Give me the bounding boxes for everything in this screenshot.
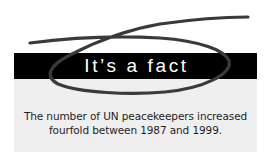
fact-text-line-1: The number of UN peacekeepers increased bbox=[14, 109, 257, 123]
fact-box: The number of UN peacekeepers increased … bbox=[14, 79, 257, 152]
fact-text: The number of UN peacekeepers increased … bbox=[14, 109, 257, 137]
fact-text-line-2: fourfold between 1987 and 1999. bbox=[14, 123, 257, 137]
banner-title: It’s a fact bbox=[84, 53, 188, 79]
title-banner: It’s a fact bbox=[14, 53, 257, 79]
